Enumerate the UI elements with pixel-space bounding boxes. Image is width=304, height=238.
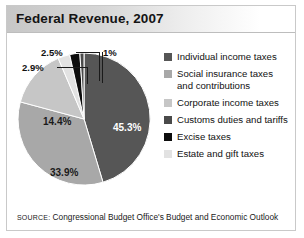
legend-swatch-icon	[164, 116, 172, 124]
legend-item-excise-taxes[interactable]: Excise taxes	[164, 131, 290, 143]
legend-swatch-icon	[164, 53, 172, 61]
legend-swatch-icon	[164, 150, 172, 158]
callout-label-excise-taxes: 2.5%	[41, 47, 63, 58]
chart-header-band: Federal Revenue, 2007	[7, 6, 295, 33]
slice-value-social-insurance-taxes: 33.9%	[50, 167, 78, 178]
callout-label-customs-duties-and-tariffs: 1%	[103, 47, 117, 58]
source-body: Congressional Budget Office's Budget and…	[53, 212, 279, 222]
source-prefix: SOURCE:	[17, 214, 50, 221]
legend-item-label: Customs duties and tariffs	[177, 114, 288, 126]
callout-label-estate-and-gift-taxes: 2.9%	[22, 62, 44, 73]
leader-line-customs-vertical	[102, 52, 103, 83]
legend-item-social-insurance-taxes[interactable]: Social insurance taxes and contributions	[164, 68, 290, 91]
chart-legend: Individual income taxes Social insurance…	[164, 51, 290, 165]
legend-item-customs-duties-and-tariffs[interactable]: Customs duties and tariffs	[164, 114, 290, 126]
leader-line-excise-vertical	[99, 52, 100, 81]
source-note: SOURCE: Congressional Budget Office's Bu…	[17, 212, 278, 222]
legend-swatch-icon	[164, 99, 172, 107]
legend-item-estate-and-gift-taxes[interactable]: Estate and gift taxes	[164, 148, 290, 160]
legend-swatch-icon	[164, 133, 172, 141]
legend-item-corporate-income-taxes[interactable]: Corporate income taxes	[164, 97, 290, 109]
slice-value-corporate-income-taxes: 14.4%	[43, 116, 71, 127]
leader-line-estate-vertical	[87, 67, 88, 84]
legend-item-label: Corporate income taxes	[177, 97, 279, 109]
slice-value-individual-income-taxes: 45.3%	[113, 122, 141, 133]
page-title: Federal Revenue, 2007	[16, 11, 164, 26]
plot-area: 45.3% 33.9% 14.4% 2.9% 2.5% 1% Individua…	[7, 34, 295, 202]
legend-item-label: Excise taxes	[177, 131, 231, 143]
legend-item-label: Estate and gift taxes	[177, 148, 264, 160]
chart-figure: Federal Revenue, 2007 45.3% 33.9% 14.4	[6, 5, 296, 231]
legend-item-individual-income-taxes[interactable]: Individual income taxes	[164, 51, 290, 63]
legend-swatch-icon	[164, 70, 172, 78]
legend-item-label: Social insurance taxes and contributions	[177, 68, 290, 91]
legend-item-label: Individual income taxes	[177, 51, 277, 63]
leader-line-estate-horizontal	[57, 67, 88, 68]
leader-line-excise-horizontal	[76, 52, 100, 53]
